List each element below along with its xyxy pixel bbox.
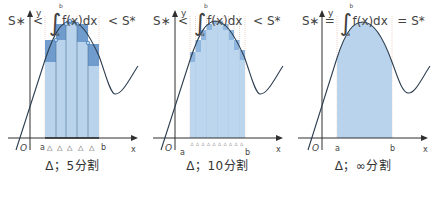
a-label: a <box>40 143 45 152</box>
division-caption: Δ；∞分割 <box>290 156 436 173</box>
operator-1: = <box>325 14 335 28</box>
integrand: f(x)dx <box>353 14 388 28</box>
x-axis-arrow-icon <box>276 135 283 141</box>
integrand: f(x)dx <box>207 14 242 28</box>
x-axis-arrow-icon <box>421 135 428 141</box>
lower-limit: a <box>56 30 60 37</box>
b-label: b <box>390 144 395 153</box>
svg-text:△: △ <box>229 141 233 146</box>
lower-sum-symbol: S∗ <box>153 14 171 28</box>
inequality-formula: S∗ < ∫ b a f(x)dx < S* <box>145 0 290 40</box>
x-label: x <box>131 145 136 154</box>
operator-2: = <box>397 14 407 28</box>
x-label: x <box>276 145 281 154</box>
upper-limit: b <box>59 2 63 9</box>
lower-limit: a <box>347 30 351 37</box>
equality-formula: S∗ = ∫ b a f(x)dx = S* <box>290 0 435 40</box>
a-label: a <box>335 144 340 153</box>
operator-2: < <box>253 14 263 28</box>
x-label: x <box>423 145 428 154</box>
origin-label: O <box>165 143 172 153</box>
division-caption: Δ；5分割 <box>0 156 145 173</box>
delta-markers: △ △ △ △ △ △ △ △ △ △ <box>191 141 245 146</box>
panel-10-divisions: y x O a b △ △ △ △ △ △ △ △ △ △ Δ；10分割 S∗ … <box>145 0 290 224</box>
upper-sum-symbol: S* <box>411 14 425 28</box>
upper-limit: b <box>204 2 208 9</box>
b-label: b <box>101 143 106 152</box>
operator-1: < <box>178 14 188 28</box>
svg-text:△: △ <box>235 141 239 146</box>
svg-text:△: △ <box>213 141 217 146</box>
x-axis-arrow-icon <box>131 135 138 141</box>
upper-sum-symbol: S* <box>122 14 136 28</box>
svg-text:△: △ <box>207 141 211 146</box>
svg-text:△: △ <box>67 144 73 152</box>
svg-text:△: △ <box>89 144 95 152</box>
integrand: f(x)dx <box>62 14 97 28</box>
division-caption: Δ；10分割 <box>145 156 290 173</box>
svg-text:△: △ <box>57 144 63 152</box>
upper-sum-symbol: S* <box>267 14 281 28</box>
svg-text:△: △ <box>191 141 195 146</box>
origin-label: O <box>312 143 319 153</box>
panel-infinite-divisions: y x O a b Δ；∞分割 S∗ = ∫ b a f(x)dx = S* <box>290 0 435 224</box>
upper-limit: b <box>350 2 354 9</box>
svg-text:△: △ <box>218 141 222 146</box>
inequality-formula: S∗ < ∫ b a f(x)dx < S* <box>0 0 145 40</box>
svg-text:△: △ <box>202 141 206 146</box>
svg-text:△: △ <box>47 144 53 152</box>
operator-2: < <box>108 14 118 28</box>
origin-label: O <box>20 143 27 153</box>
lower-sum-symbol: S∗ <box>302 14 320 28</box>
lower-limit: a <box>201 30 205 37</box>
svg-text:△: △ <box>240 141 244 146</box>
svg-text:△: △ <box>224 141 228 146</box>
panel-5-divisions: y x O a b △ △ △ △ △ Δ；5分割 S∗ < ∫ b a f(x… <box>0 0 145 224</box>
svg-text:△: △ <box>196 141 200 146</box>
lower-sum-symbol: S∗ <box>8 14 26 28</box>
delta-markers: △ △ △ △ △ <box>47 144 95 152</box>
svg-text:△: △ <box>78 144 84 152</box>
operator-1: < <box>33 14 43 28</box>
